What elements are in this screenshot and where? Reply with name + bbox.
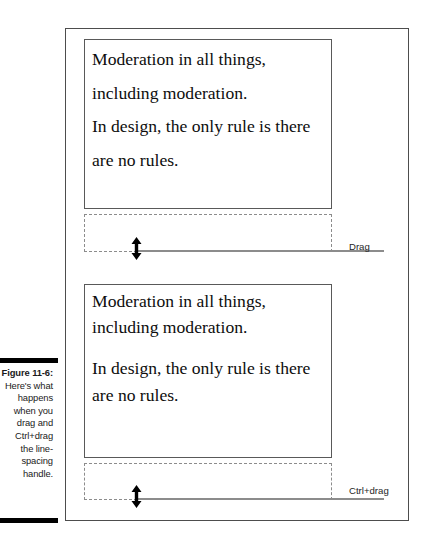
callout-label-drag: Drag: [349, 241, 370, 252]
demo-block-tight-spacing: Moderation in all things, including mode…: [84, 284, 332, 500]
leader-line: [137, 250, 384, 251]
figure-caption-body: Here's what happens when you drag and Ct…: [0, 380, 53, 481]
text-box-tight-spacing[interactable]: Moderation in all things, including mode…: [84, 284, 332, 458]
double-arrow-vertical-icon[interactable]: [130, 485, 143, 508]
line-spacing-handle-region-tight[interactable]: [84, 463, 332, 500]
line-spacing-handle-region-loose[interactable]: [84, 214, 332, 252]
caption-rule-top: [0, 358, 58, 363]
caption-rule-bottom: [0, 518, 58, 523]
paragraph: Moderation in all things, including mode…: [92, 288, 325, 340]
paragraph: In design, the only rule is there are no…: [92, 355, 325, 407]
double-arrow-vertical-icon[interactable]: [130, 237, 143, 260]
figure-caption: Figure 11-6: Here's what happens when yo…: [0, 367, 53, 480]
leader-line: [137, 498, 384, 499]
callout-label-ctrl-drag: Ctrl+drag: [349, 485, 389, 496]
figure-frame: Moderation in all things, including mode…: [65, 28, 409, 521]
demo-block-loose-spacing: Moderation in all things, including mode…: [84, 39, 332, 252]
paragraph: Moderation in all things, including mode…: [92, 43, 325, 177]
figure-caption-label: Figure 11-6:: [0, 367, 53, 380]
text-box-loose-spacing[interactable]: Moderation in all things, including mode…: [84, 39, 332, 209]
